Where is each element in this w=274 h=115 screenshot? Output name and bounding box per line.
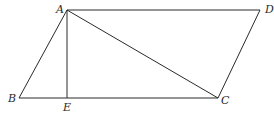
label-D: D	[264, 3, 274, 16]
label-A: A	[55, 3, 64, 16]
segment-AC	[67, 10, 218, 98]
segment-CD	[218, 10, 260, 98]
label-C: C	[221, 94, 230, 107]
label-E: E	[62, 101, 71, 114]
segment-AB	[19, 10, 67, 98]
label-B: B	[7, 92, 16, 105]
geometry-diagram: A D B E C	[0, 0, 274, 115]
